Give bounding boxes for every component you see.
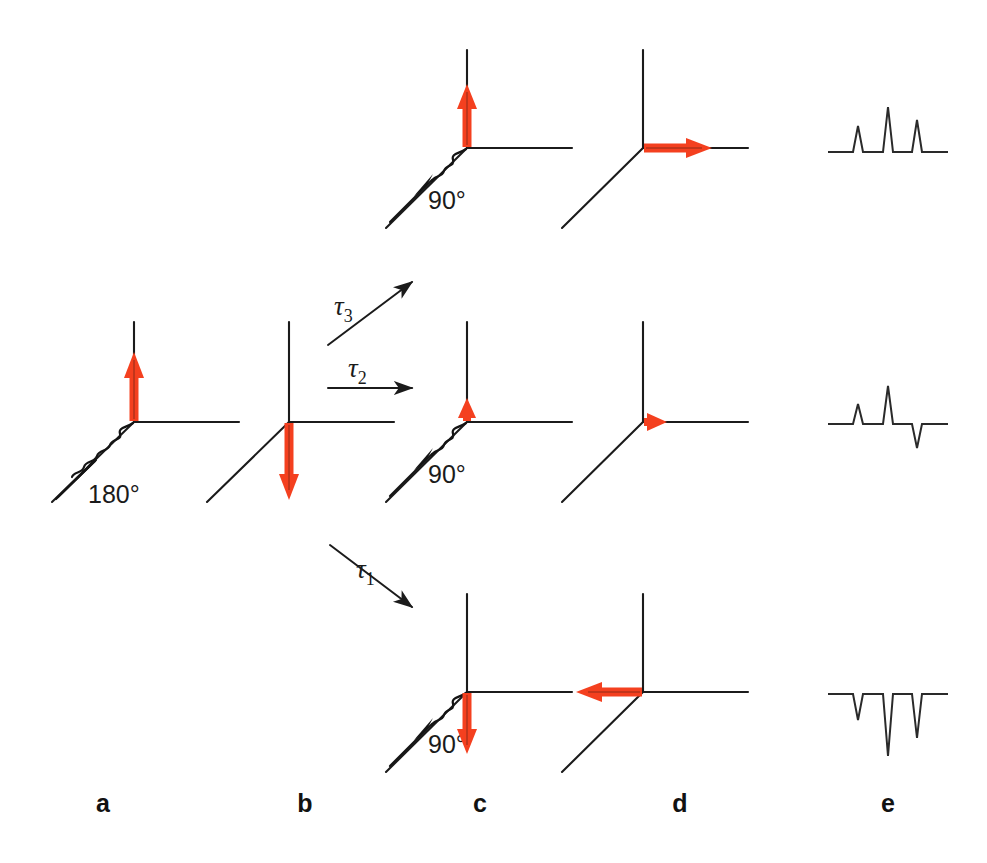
panel-c-middle-angle-label: 90° bbox=[428, 460, 466, 488]
delay-label-tau2: τ2 bbox=[348, 353, 367, 388]
delay-label-tau3: τ3 bbox=[334, 291, 353, 326]
nmr-vector-figure: 180° τ3 τ2 bbox=[0, 0, 987, 863]
spectrum-bottom bbox=[828, 694, 948, 756]
panel-d-top-axes bbox=[562, 50, 748, 228]
panel-b-axes bbox=[207, 322, 394, 502]
panel-label-a: a bbox=[96, 789, 111, 817]
panel-c-middle-magnetization-arrow bbox=[458, 398, 476, 421]
panel-c-bottom-axes bbox=[386, 594, 572, 772]
spectrum-top bbox=[828, 107, 948, 152]
panel-c-middle-axes bbox=[386, 322, 572, 502]
panel-c-top-magnetization-arrow bbox=[457, 84, 477, 147]
delay-label-tau1: τ1 bbox=[356, 554, 375, 589]
panel-label-c: c bbox=[473, 789, 487, 817]
panel-d-bottom-magnetization-arrow bbox=[576, 682, 642, 702]
panel-label-b: b bbox=[297, 789, 312, 817]
panel-a-magnetization-arrow bbox=[124, 352, 144, 421]
panel-a-angle-label: 180° bbox=[88, 480, 140, 508]
panel-d-middle-magnetization-arrow bbox=[644, 413, 667, 431]
panel-c-top-angle-label: 90° bbox=[428, 186, 466, 214]
panel-label-d: d bbox=[672, 789, 687, 817]
panel-label-e: e bbox=[881, 789, 895, 817]
panel-d-top-magnetization-arrow bbox=[644, 138, 712, 158]
panel-d-middle-axes bbox=[562, 322, 748, 502]
panel-b-magnetization-arrow bbox=[279, 423, 299, 500]
panel-d-bottom-axes bbox=[562, 594, 748, 772]
figure-canvas: 180° τ3 τ2 bbox=[0, 0, 987, 863]
panel-c-top-axes bbox=[386, 50, 572, 228]
spectrum-middle bbox=[828, 386, 948, 448]
